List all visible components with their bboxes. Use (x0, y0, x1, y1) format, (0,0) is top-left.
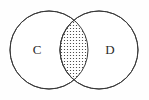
set-label-c: C (33, 42, 42, 57)
venn-diagram-figure: C D (0, 0, 149, 100)
venn-diagram-canvas: C D (0, 0, 149, 100)
set-label-d: D (105, 42, 114, 57)
